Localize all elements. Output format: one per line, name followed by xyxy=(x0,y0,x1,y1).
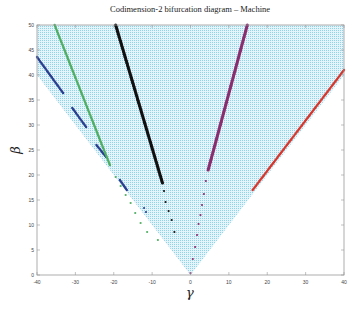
y-tick-label: 40 xyxy=(28,72,34,78)
x-tick-label: -20 xyxy=(110,279,117,285)
data-point xyxy=(134,212,136,214)
data-point xyxy=(125,194,127,196)
data-point xyxy=(197,223,199,225)
data-point xyxy=(157,239,159,241)
data-point xyxy=(126,189,128,191)
y-tick-label: 45 xyxy=(28,47,34,53)
y-tick-label: 10 xyxy=(28,222,34,228)
chart-title: Codimension-2 bifurcation diagram – Mach… xyxy=(110,4,270,14)
data-point xyxy=(146,231,148,233)
y-tick-label: 0 xyxy=(31,272,34,278)
plot-area xyxy=(36,23,345,275)
data-point xyxy=(173,231,175,233)
y-tick-label: 30 xyxy=(28,122,34,128)
y-tick-label: 15 xyxy=(28,197,34,203)
data-point xyxy=(140,222,142,224)
data-point xyxy=(115,176,117,178)
data-point xyxy=(163,190,165,192)
x-tick-label: -40 xyxy=(33,279,40,285)
x-tick-label: 30 xyxy=(303,279,309,285)
data-point xyxy=(145,211,147,213)
data-point xyxy=(203,193,205,195)
data-point xyxy=(130,202,132,204)
x-tick-label: 10 xyxy=(226,279,232,285)
data-point xyxy=(201,204,203,206)
data-point xyxy=(207,168,210,171)
data-point xyxy=(196,234,198,236)
data-point xyxy=(143,207,145,209)
x-tick-label: -30 xyxy=(72,279,79,285)
data-point xyxy=(62,92,64,94)
y-tick-label: 50 xyxy=(28,22,34,28)
data-point xyxy=(194,246,196,248)
data-point xyxy=(192,258,194,260)
y-tick-label: 35 xyxy=(28,97,34,103)
data-point xyxy=(199,214,201,216)
stable-region-fill xyxy=(37,25,344,275)
data-point xyxy=(161,181,164,184)
y-tick-label: 20 xyxy=(28,172,34,178)
y-tick-label: 25 xyxy=(28,147,34,153)
data-point xyxy=(164,201,166,203)
y-axis-label: β xyxy=(8,146,23,155)
x-axis-label: γ xyxy=(186,285,194,300)
bifurcation-chart: Codimension-2 bifurcation diagram – Mach… xyxy=(0,0,355,309)
data-point xyxy=(85,126,87,128)
data-point xyxy=(120,185,122,187)
data-point xyxy=(171,219,173,221)
x-tick-label: 40 xyxy=(341,279,347,285)
y-tick-label: 5 xyxy=(31,247,34,253)
data-point xyxy=(109,164,111,166)
data-point xyxy=(205,180,207,182)
data-point xyxy=(168,210,170,212)
x-tick-label: -10 xyxy=(149,279,156,285)
x-tick-label: 20 xyxy=(264,279,270,285)
